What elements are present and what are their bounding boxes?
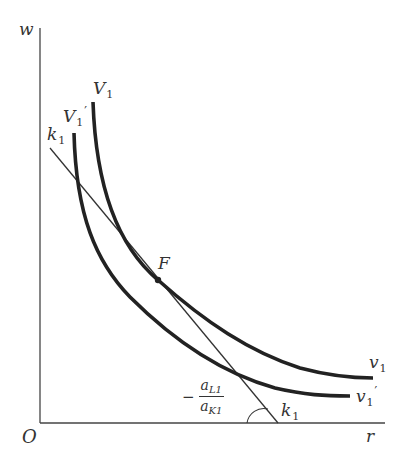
v1p-sub: 1 — [76, 116, 83, 129]
k1-top-label: k1 — [47, 126, 65, 146]
v1p-main: V — [63, 106, 75, 126]
slope-denominator: aK1 — [200, 397, 222, 416]
num-sub: L1 — [209, 384, 222, 395]
v1p-bottom-main: v — [356, 386, 366, 406]
curve-v1-prime-top-label: V1′ — [63, 106, 87, 128]
slope-minus: − — [182, 388, 195, 406]
k1-bottom-main: k — [281, 400, 291, 420]
k1-bottom-label: k1 — [281, 402, 299, 422]
slope-fraction: aL1 aK1 — [199, 377, 224, 416]
curve-v1-prime — [74, 133, 350, 396]
origin-label-text: O — [22, 426, 37, 447]
k1-top-sub: 1 — [58, 134, 65, 147]
v1p-bottom-prime: ′ — [375, 385, 378, 399]
v1p-prime: ′ — [84, 105, 87, 119]
v1-bottom-main: v — [369, 352, 379, 372]
x-axis-label: r — [366, 428, 374, 445]
curve-v1-prime-bottom-label: v1′ — [356, 386, 377, 408]
v1-bottom-sub: 1 — [380, 362, 387, 375]
slope-numerator: aL1 — [199, 377, 224, 397]
k1-bottom-sub: 1 — [292, 410, 299, 423]
slope-label: − aL1 aK1 — [182, 377, 224, 416]
num-main: a — [201, 377, 209, 393]
y-axis-label-text: w — [19, 19, 34, 39]
v1-sub: 1 — [106, 88, 113, 101]
point-f-text: F — [158, 253, 170, 273]
angle-arc — [247, 408, 268, 423]
curve-v1 — [93, 102, 373, 378]
k1-top-main: k — [47, 124, 57, 144]
origin-label: O — [22, 428, 37, 446]
v1p-bottom-sub: 1 — [367, 396, 374, 409]
point-f — [155, 277, 161, 283]
point-f-label: F — [158, 255, 170, 272]
curve-v1-top-label: V1 — [93, 80, 113, 100]
curve-v1-bottom-label: v1 — [369, 354, 387, 374]
den-sub: K1 — [209, 405, 223, 416]
den-main: a — [200, 398, 208, 414]
y-axis-label: w — [19, 21, 34, 38]
v1-main: V — [93, 78, 105, 98]
x-axis-label-text: r — [366, 426, 374, 446]
